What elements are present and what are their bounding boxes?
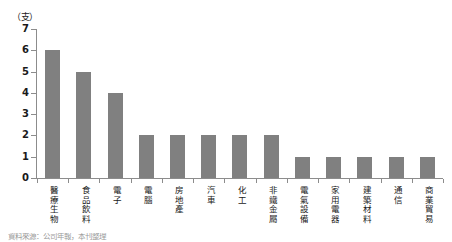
bar-slot xyxy=(224,29,255,178)
bar[interactable] xyxy=(264,135,279,178)
bar[interactable] xyxy=(108,93,123,178)
x-axis-category-label: 電子 xyxy=(110,186,120,205)
y-axis-tick-label: 7 xyxy=(3,24,29,34)
bar-slot xyxy=(193,29,224,178)
y-axis-tick-label: 6 xyxy=(3,45,29,55)
bar[interactable] xyxy=(420,157,435,178)
x-axis-tick xyxy=(381,179,382,183)
y-axis-tick-label: 3 xyxy=(3,109,29,119)
x-axis-category-label: 房地產 xyxy=(173,186,183,215)
bar-slot xyxy=(349,29,380,178)
x-axis-category-label: 通信 xyxy=(391,186,401,205)
x-axis-tick xyxy=(193,179,194,183)
x-axis-tick xyxy=(349,179,350,183)
y-axis-tick-label: 1 xyxy=(3,152,29,162)
x-axis-line xyxy=(36,178,443,179)
x-axis-category-label: 建築材料 xyxy=(360,186,370,224)
bar-slot xyxy=(256,29,287,178)
bar[interactable] xyxy=(295,157,310,178)
x-axis-tick xyxy=(318,179,319,183)
x-axis-tick xyxy=(37,179,38,183)
bar[interactable] xyxy=(201,135,216,178)
x-axis-category-label: 非鐵金屬 xyxy=(266,186,276,224)
bar-slot xyxy=(131,29,162,178)
x-axis-tick xyxy=(412,179,413,183)
x-axis-category-label: 電腦 xyxy=(142,186,152,205)
x-axis-tick xyxy=(287,179,288,183)
x-axis-tick xyxy=(131,179,132,183)
y-axis-tick-label: 4 xyxy=(3,88,29,98)
y-axis-tick-label: 2 xyxy=(3,130,29,140)
bar[interactable] xyxy=(170,135,185,178)
plot-area xyxy=(37,29,443,178)
bar[interactable] xyxy=(326,157,341,178)
x-axis-tick xyxy=(162,179,163,183)
bar[interactable] xyxy=(232,135,247,178)
x-axis-category-label: 汽車 xyxy=(204,186,214,205)
x-axis-category-label: 家用電器 xyxy=(329,186,339,224)
x-axis-tick xyxy=(68,179,69,183)
bar-slot xyxy=(318,29,349,178)
x-axis-category-label: 化工 xyxy=(235,186,245,205)
bar-slot xyxy=(37,29,68,178)
bar[interactable] xyxy=(45,50,60,178)
y-axis-tick-label: 0 xyxy=(3,173,29,183)
bar[interactable] xyxy=(76,72,91,178)
bar[interactable] xyxy=(139,135,154,178)
x-axis-tick xyxy=(256,179,257,183)
chart-source-caption: 資料來源：公司年報，本刊整理 xyxy=(8,233,248,242)
x-axis-tick xyxy=(443,179,444,183)
bar-slot xyxy=(287,29,318,178)
bar-slot xyxy=(99,29,130,178)
x-axis-category-label: 商業貿易 xyxy=(423,186,433,224)
bar[interactable] xyxy=(357,157,372,178)
y-axis-tick-labels: 01234567 xyxy=(0,0,29,242)
x-axis-category-label: 食品飲料 xyxy=(79,186,89,224)
bar-chart: （支） 01234567 醫療生物食品飲料電子電腦房地產汽車化工非鐵金屬電氣設備… xyxy=(0,0,452,242)
y-axis-tick-label: 5 xyxy=(3,67,29,77)
bar[interactable] xyxy=(389,157,404,178)
x-axis-category-label: 電氣設備 xyxy=(298,186,308,224)
bar-slot xyxy=(68,29,99,178)
x-axis-category-label: 醫療生物 xyxy=(48,186,58,224)
bar-slot xyxy=(162,29,193,178)
x-axis-tick xyxy=(224,179,225,183)
bar-slot xyxy=(381,29,412,178)
x-axis-tick xyxy=(99,179,100,183)
bar-slot xyxy=(412,29,443,178)
